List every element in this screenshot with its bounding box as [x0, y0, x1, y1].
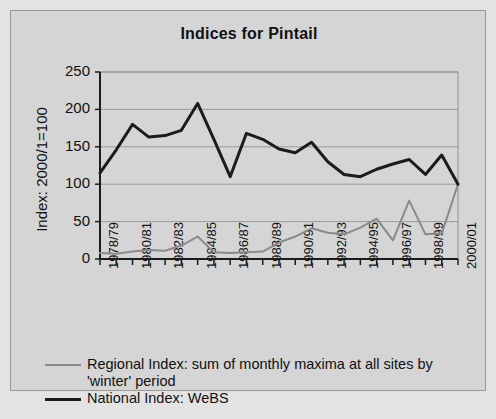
- legend-swatch-national: [45, 398, 81, 401]
- chart-figure-panel: Indices for Pintail Index: 2000/1=100 05…: [10, 10, 486, 391]
- axis-lines: [100, 72, 458, 259]
- screenshot-root: Indices for Pintail Index: 2000/1=100 05…: [0, 0, 496, 419]
- plot-area: [11, 11, 487, 392]
- legend-swatch-regional: [45, 364, 81, 366]
- legend-item-national: National Index: WeBS: [45, 390, 475, 407]
- gridline-group: [100, 72, 458, 259]
- legend-label-national: National Index: WeBS: [87, 390, 475, 407]
- legend-label-regional: Regional Index: sum of monthly maxima at…: [87, 356, 475, 390]
- data-series-group: [100, 103, 458, 253]
- chart-legend: Regional Index: sum of monthly maxima at…: [45, 356, 475, 407]
- legend-item-regional: Regional Index: sum of monthly maxima at…: [45, 356, 475, 390]
